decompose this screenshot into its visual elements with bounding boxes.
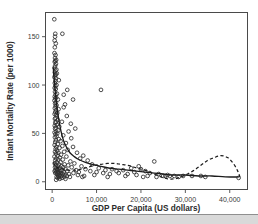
x-tick-label: 0 xyxy=(50,196,54,203)
y-tick-label: 150 xyxy=(28,33,40,40)
y-axis-label: Infant Mortality Rate (per 1000) xyxy=(6,41,15,161)
y-tick-label: 50 xyxy=(32,130,40,137)
x-tick-label: 10,000 xyxy=(86,196,108,203)
x-tick-label: 20,000 xyxy=(130,196,152,203)
x-tick-label: 30,000 xyxy=(175,196,197,203)
figure-panel: 010,00020,00030,00040,000 050100150 GDP … xyxy=(0,0,258,224)
x-axis-label: GDP Per Capita (US dollars) xyxy=(92,204,201,213)
y-tick-label: 100 xyxy=(28,82,40,89)
footer-band xyxy=(0,215,258,224)
x-tick-label: 40,000 xyxy=(219,196,241,203)
scatter-plot: 010,00020,00030,00040,000 050100150 GDP … xyxy=(0,0,258,224)
y-tick-label: 0 xyxy=(36,178,40,185)
